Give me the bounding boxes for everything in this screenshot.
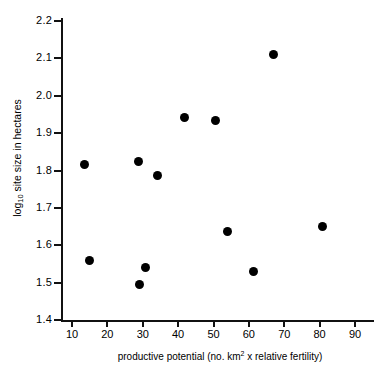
data-point xyxy=(153,171,162,180)
data-point xyxy=(269,50,278,59)
x-axis-title-pre: productive potential (no. km xyxy=(118,351,241,362)
data-point xyxy=(211,116,220,125)
y-axis-title-pre: log xyxy=(11,203,23,217)
data-point xyxy=(249,267,258,276)
data-point xyxy=(180,113,189,122)
x-axis-title-post: x relative fertility) xyxy=(244,351,322,362)
y-axis-title-post: site size in hectares xyxy=(11,99,23,194)
data-point xyxy=(223,227,232,236)
x-axis-title: productive potential (no. km2 x relative… xyxy=(61,348,379,363)
data-point xyxy=(85,256,94,265)
data-point xyxy=(135,280,144,289)
data-point xyxy=(318,222,327,231)
data-point xyxy=(80,160,89,169)
data-points-layer xyxy=(0,0,379,370)
y-axis-title-subscript: 10 xyxy=(16,194,25,202)
y-axis-title: log10 site size in hectares xyxy=(11,53,27,263)
data-point xyxy=(141,263,150,272)
data-point xyxy=(134,157,143,166)
scatter-plot-figure: 2.22.12.01.91.81.71.61.51.4 102030405060… xyxy=(0,0,379,370)
